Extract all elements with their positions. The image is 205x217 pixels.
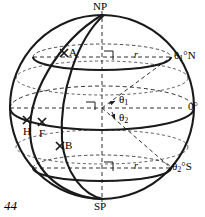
right-angle-marker-south: [104, 162, 113, 171]
sphere-latitude-figure: NP SP θ1°N 0° θ2°S θ1 θ2 r r A H F B 44: [0, 0, 205, 217]
south-parallel-label-suffix: °S: [181, 160, 192, 172]
point-label-h: H: [23, 126, 31, 137]
north-parallel-label-suffix: °N: [183, 49, 195, 61]
south-parallel-label: θ2°S: [172, 161, 192, 174]
meridian-left: [30, 15, 102, 199]
point-label-a: A: [69, 47, 77, 58]
radius-label-south: r: [134, 161, 138, 171]
theta-1-sub: 1: [124, 98, 128, 107]
right-angle-marker-centre: [86, 102, 95, 110]
equator-label: 0°: [188, 101, 198, 112]
page-number: 44: [4, 199, 17, 212]
theta-1-label: θ1: [119, 94, 128, 107]
point-marker-a: [60, 49, 68, 57]
theta-2-sub: 2: [124, 116, 128, 125]
theta-2-label: θ2: [119, 112, 128, 125]
right-angle-marker-north: [104, 51, 113, 60]
point-label-b: B: [65, 140, 72, 151]
north-pole-label: NP: [93, 1, 107, 12]
radius-to-south-parallel: [102, 108, 171, 168]
radius-label-north: r: [134, 50, 138, 60]
south-pole-label: SP: [94, 201, 106, 212]
sphere-diagram-canvas: [0, 0, 205, 217]
point-label-f: F: [39, 128, 45, 139]
north-parallel-label: θ1°N: [174, 50, 196, 63]
